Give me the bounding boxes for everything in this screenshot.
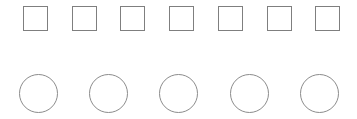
square-shape[interactable] (72, 6, 97, 31)
circle-shape[interactable] (19, 74, 58, 113)
square-shape[interactable] (315, 6, 340, 31)
square-shape[interactable] (218, 6, 243, 31)
circle-shape[interactable] (89, 74, 128, 113)
circle-shape[interactable] (300, 74, 339, 113)
circle-shape[interactable] (230, 74, 269, 113)
square-shape[interactable] (120, 6, 145, 31)
circle-shape[interactable] (159, 74, 198, 113)
shapes-canvas (0, 0, 357, 119)
square-shape[interactable] (267, 6, 292, 31)
square-shape[interactable] (23, 6, 48, 31)
square-shape[interactable] (169, 6, 194, 31)
